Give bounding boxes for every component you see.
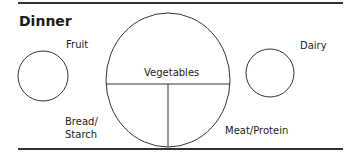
bread-label-line1: Bread/ (65, 115, 98, 128)
bread-label-line2: Starch (65, 128, 98, 141)
dairy-label: Dairy (300, 39, 327, 52)
meat-protein-label: Meat/Protein (225, 124, 288, 137)
vegetables-label: Vegetables (144, 66, 199, 79)
plate-diagram (0, 0, 354, 163)
bread-starch-label: Bread/ Starch (65, 115, 98, 141)
dairy-circle (246, 49, 294, 97)
fruit-label: Fruit (66, 38, 88, 51)
fruit-circle (18, 51, 68, 101)
